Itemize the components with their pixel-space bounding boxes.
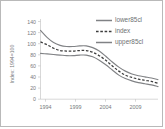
y-tick-label: 20 [30, 85, 36, 91]
y-axis-tick-marks [38, 22, 41, 100]
x-axis-tick-labels: 1994 1999 2004 2009 [40, 104, 142, 110]
x-tick-label: 2009 [130, 104, 142, 110]
y-tick-label: 0 [33, 96, 36, 102]
x-tick-label: 1994 [40, 104, 52, 110]
y-tick-label: 120 [27, 30, 36, 36]
y-tick-label: 140 [27, 19, 36, 25]
y-tick-label: 100 [27, 41, 36, 47]
chart-legend: lower85cl index upper85cl [96, 16, 143, 46]
y-axis-tick-labels: 140 120 100 80 60 40 20 0 [27, 19, 36, 103]
y-tick-label: 40 [30, 74, 36, 80]
y-axis-title: Index: 1994=100 [9, 44, 15, 83]
x-tick-label: 1999 [70, 104, 82, 110]
y-tick-label: 80 [30, 52, 36, 58]
series-line-index [41, 42, 159, 83]
y-tick-label: 60 [30, 63, 36, 69]
line-chart: Index: 1994=100 140 120 100 80 60 40 20 … [1, 1, 164, 128]
chart-container: Index: 1994=100 140 120 100 80 60 40 20 … [0, 0, 163, 127]
legend-label-upper85cl: upper85cl [115, 38, 143, 46]
legend-label-lower85cl: lower85cl [115, 16, 142, 23]
x-axis-tick-marks [46, 99, 136, 102]
series-line-lower85cl [41, 53, 159, 86]
legend-label-index: index [115, 27, 131, 34]
x-tick-label: 2004 [100, 104, 112, 110]
